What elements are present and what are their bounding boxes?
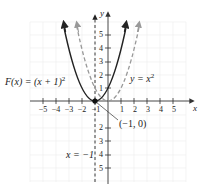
x-tick-label: −4: [52, 106, 61, 114]
x-tick-label: −2: [78, 106, 87, 114]
y-tick-label: 5: [99, 31, 103, 39]
x-tick-label: −3: [65, 106, 74, 114]
y-tick-label: 2: [99, 72, 103, 80]
F-equation-label: F(x) = (x + 1)2: [5, 76, 65, 87]
x-tick-label: −5: [39, 106, 48, 114]
y-equals-x-squared-label: y = x2: [130, 73, 154, 84]
y-tick-label: 2: [99, 124, 103, 132]
symmetry-line-label: x = −1: [66, 150, 94, 160]
x-tick-label: 1: [120, 106, 124, 114]
y-tick-label: 5: [99, 165, 103, 173]
x-tick-label: 5: [172, 106, 176, 114]
x-axis-label: x: [193, 104, 197, 113]
coordinate-plane: [0, 0, 208, 187]
y-tick-label: 1: [99, 85, 103, 93]
y-tick-label: 4: [99, 151, 103, 159]
vertex-label: (−1, 0): [119, 119, 146, 129]
y-tick-label: 3: [99, 138, 103, 146]
y-axis-label: y: [100, 9, 104, 18]
y-tick-label: 3: [99, 58, 103, 66]
x-tick-label: −1: [92, 106, 101, 114]
x-tick-label: 2: [133, 106, 137, 114]
x-tick-label: 3: [146, 106, 150, 114]
x-tick-label: 4: [159, 106, 163, 114]
y-tick-label: 4: [99, 45, 103, 53]
